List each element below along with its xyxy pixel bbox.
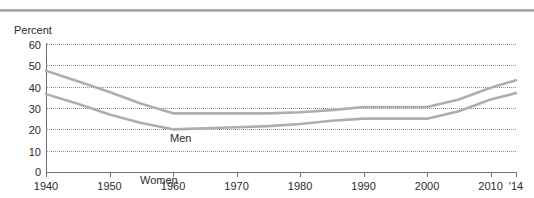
y-axis-title: Percent	[14, 24, 52, 36]
plot-area: 0102030405060 Men Women	[46, 44, 516, 172]
x-axis-line	[46, 172, 516, 173]
x-tick-label: 1940	[34, 180, 58, 192]
x-tick-label: 2000	[415, 180, 439, 192]
x-tick-mark	[516, 172, 517, 177]
y-tick-label: 60	[29, 40, 41, 51]
series-group	[46, 44, 516, 172]
chart-figure: Percent 0102030405060 Men Women 19401950…	[0, 0, 534, 198]
x-tick-label: 2010	[478, 180, 502, 192]
x-tick-mark	[46, 172, 47, 177]
y-tick-label: 30	[29, 104, 41, 115]
y-tick-label: 40	[29, 82, 41, 93]
x-tick-label: '14	[509, 180, 523, 192]
x-tick-mark	[110, 172, 111, 177]
y-tick-label: 50	[29, 61, 41, 72]
x-tick-label: 1980	[288, 180, 312, 192]
x-tick-mark	[364, 172, 365, 177]
x-tick-mark	[237, 172, 238, 177]
series-label-men: Men	[170, 132, 191, 144]
y-tick-label: 10	[29, 146, 41, 157]
x-tick-label: 1960	[161, 180, 185, 192]
x-tick-mark	[300, 172, 301, 177]
series-line-men	[46, 71, 516, 114]
x-tick-mark	[173, 172, 174, 177]
y-tick-label: 0	[35, 167, 41, 178]
x-tick-label: 1970	[224, 180, 248, 192]
x-tick-mark	[491, 172, 492, 177]
y-tick-label: 20	[29, 125, 41, 136]
top-divider	[0, 9, 534, 12]
x-tick-label: 1950	[97, 180, 121, 192]
series-line-women	[46, 93, 516, 129]
x-tick-label: 1990	[351, 180, 375, 192]
x-tick-mark	[427, 172, 428, 177]
